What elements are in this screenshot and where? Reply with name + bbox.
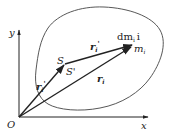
y-axis-label: y (8, 27, 15, 38)
vector-origin-to-s-label: ri' (36, 79, 46, 93)
x-axis-label: x (141, 120, 147, 131)
point-s-label: S (57, 55, 64, 66)
vector-s-to-mass-label: ri' (90, 39, 100, 53)
mass-label: mi (134, 43, 145, 55)
point-s-prime-label: S' (66, 66, 76, 77)
mass-element-label: dmii (117, 31, 140, 43)
vector-diagram: y x O S S' dmii mi ri' ri' ri (0, 0, 177, 139)
vector-origin-to-mass-label: ri (97, 73, 105, 85)
origin-label: O (7, 119, 15, 130)
